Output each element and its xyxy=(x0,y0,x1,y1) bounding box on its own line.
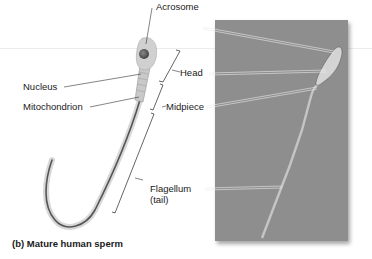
label-mitochondrion: Mitochondrion xyxy=(23,102,83,112)
micrograph-sperm xyxy=(262,47,342,238)
figure-caption: (b) Mature human sperm xyxy=(12,238,123,249)
mitochondrion-leader xyxy=(90,97,139,107)
label-flagellum-tail: (tail) xyxy=(150,195,168,205)
nucleus-leader xyxy=(64,74,141,87)
label-acrosome: Acrosome xyxy=(156,2,199,12)
label-flagellum: Flagellum xyxy=(150,184,191,194)
sperm-diagram xyxy=(0,0,372,259)
label-midpiece: Midpiece xyxy=(166,102,204,112)
sperm-illustration xyxy=(46,38,157,227)
label-head: Head xyxy=(180,68,203,78)
label-nucleus: Nucleus xyxy=(23,82,57,92)
